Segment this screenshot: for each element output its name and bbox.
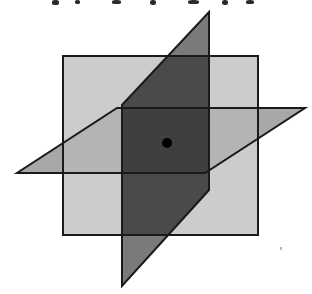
scan-speck-corner xyxy=(280,247,282,250)
intersection-point-dot xyxy=(162,138,172,148)
figure-root xyxy=(0,0,312,294)
three-planes-diagram xyxy=(0,0,312,294)
